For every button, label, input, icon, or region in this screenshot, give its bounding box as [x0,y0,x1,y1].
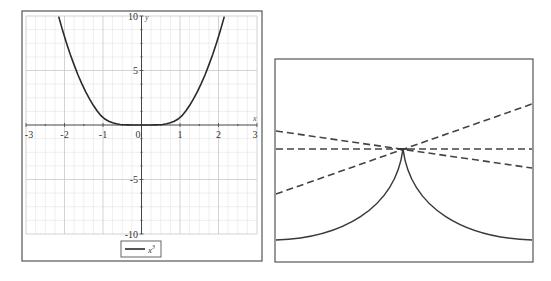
y-tick-label: -5 [130,174,138,185]
right-plot [275,59,533,262]
x-tick-label: -1 [99,129,107,140]
legend: x3 [121,241,161,257]
left-plot: -3 -2 -1 0 1 2 3 10 5 -5 -10 y x x3 [22,11,262,261]
figure: -3 -2 -1 0 1 2 3 10 5 -5 -10 y x x3 [0,0,551,281]
x-tick-label: 3 [253,129,258,140]
y-tick-label: 5 [133,65,138,76]
x-tick-label: -3 [25,129,33,140]
x-tick-label: 1 [178,129,183,140]
x-axis-label: x [252,114,257,123]
y-tick-label: 10 [128,11,138,22]
x-tick-label: -2 [60,129,68,140]
right-plot-frame [275,59,533,262]
x-tick-label: 2 [216,129,221,140]
x-tick-label: 0 [136,129,141,140]
y-axis-label: y [144,13,149,22]
y-tick-label: -10 [125,229,138,240]
